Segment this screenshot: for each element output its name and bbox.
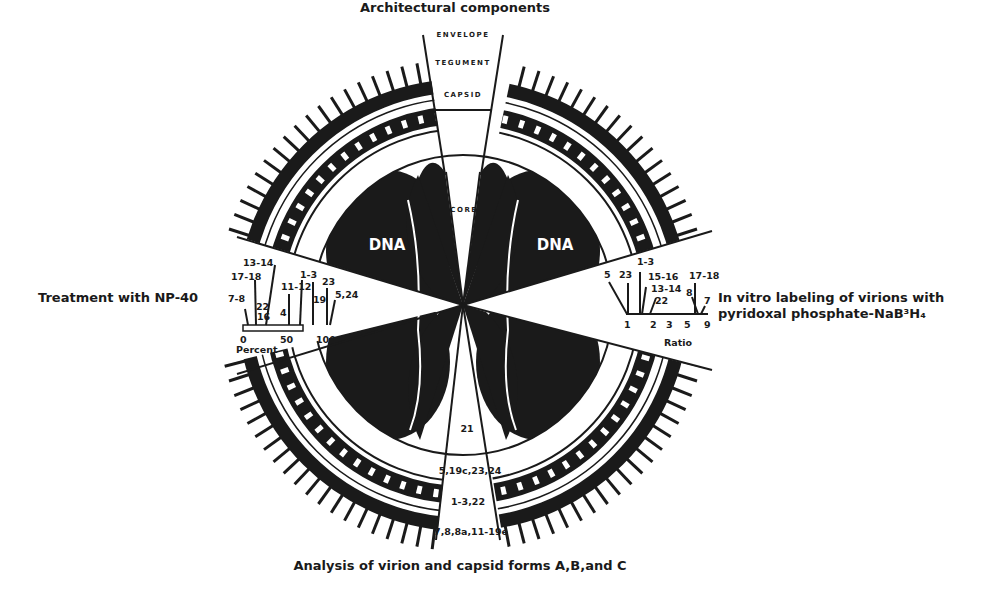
title-in-vitro-labeling-line1: In vitro labeling of virions with bbox=[718, 290, 944, 305]
ratio-label-17-18: 17-18 bbox=[689, 270, 720, 281]
np40-tick-50: 50 bbox=[280, 334, 294, 345]
label-core: CORE bbox=[450, 206, 477, 214]
ratio-tick-3: 3 bbox=[666, 319, 673, 330]
np40-label-16: 16 bbox=[257, 311, 271, 322]
capsid-forms-row-4: 7,8,8a,11-19e bbox=[434, 526, 508, 537]
np40-label-19: 19 bbox=[313, 294, 326, 305]
np40-axis-label: Percent bbox=[236, 344, 278, 355]
capsid-forms-row-3: 1-3,22 bbox=[451, 496, 485, 507]
label-dna-right: DNA bbox=[537, 236, 574, 254]
label-envelope: ENVELOPE bbox=[437, 31, 490, 39]
ratio-label-13-14: 13-14 bbox=[651, 283, 682, 294]
capsid-forms-row-2: 5,19c,23,24 bbox=[439, 465, 502, 476]
np40-percent-scale: Treatment with NP-40 13-14 17-18 7-8 22 … bbox=[38, 257, 359, 355]
ratio-label-7: 7 bbox=[704, 295, 711, 306]
ratio-label-8: 8 bbox=[686, 287, 693, 298]
ratio-tick-1: 1 bbox=[624, 319, 631, 330]
ratio-label-5: 5 bbox=[604, 269, 611, 280]
ratio-label-1-3: 1-3 bbox=[637, 256, 654, 267]
np40-label-1-3: 1-3 bbox=[300, 269, 317, 280]
title-in-vitro-labeling-line2: pyridoxal phosphate-NaB³H₄ bbox=[718, 306, 926, 321]
np40-label-13-14: 13-14 bbox=[243, 257, 274, 268]
title-architectural-components: Architectural components bbox=[360, 0, 550, 15]
label-dna-left: DNA bbox=[369, 236, 406, 254]
title-treatment-np40: Treatment with NP-40 bbox=[38, 290, 198, 305]
ratio-tick-2: 2 bbox=[650, 319, 657, 330]
np40-label-7-8: 7-8 bbox=[228, 293, 246, 304]
ratio-axis-label: Ratio bbox=[664, 337, 693, 348]
label-tegument: TEGUMENT bbox=[435, 59, 490, 67]
ratio-label-22: 22 bbox=[655, 295, 668, 306]
capsid-forms-row-1: 21 bbox=[460, 423, 473, 434]
np40-tick-100: 100 bbox=[316, 334, 336, 345]
np40-label-5-24: 5,24 bbox=[335, 289, 359, 300]
title-capsid-forms-analysis: Analysis of virion and capsid forms A,B,… bbox=[293, 558, 626, 573]
label-capsid: CAPSID bbox=[444, 91, 482, 99]
np40-label-23: 23 bbox=[322, 276, 335, 287]
np40-label-4: 4 bbox=[280, 307, 287, 318]
ratio-tick-5: 5 bbox=[684, 319, 691, 330]
np40-label-17-18: 17-18 bbox=[231, 271, 262, 282]
np40-label-11-12: 11-12 bbox=[281, 281, 311, 292]
ratio-label-15-16: 15-16 bbox=[648, 271, 679, 282]
ratio-tick-9: 9 bbox=[704, 319, 711, 330]
ratio-label-23: 23 bbox=[619, 269, 632, 280]
virion-structure-diagram: Architectural components ENVELOPE TEGUME… bbox=[0, 0, 996, 593]
